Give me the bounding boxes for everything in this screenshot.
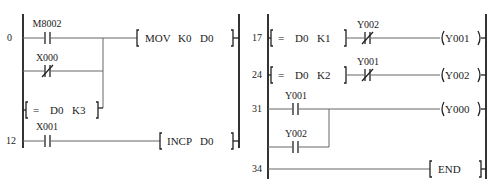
rung-17: 17 = D0 K1 Y002 Y001 (252, 19, 486, 46)
coil-label: Y000 (445, 103, 470, 115)
contact-label: X000 (36, 52, 58, 63)
instruction-op: INCP (167, 135, 192, 147)
compare-d0-k3[interactable]: = D0 K3 (23, 102, 103, 118)
compare-op: = (278, 69, 284, 81)
contact-x001[interactable]: X001 (36, 121, 58, 147)
instruction-op: MOV (145, 32, 171, 44)
step-number: 34 (252, 163, 262, 174)
coil-y002[interactable]: Y002 (442, 68, 486, 82)
coil-label: Y001 (445, 32, 469, 44)
rung-12: 12 X001 INCP D0 (6, 121, 239, 149)
contact-y001-nc[interactable]: Y001 (357, 56, 379, 81)
contact-y001-no[interactable]: Y001 (285, 90, 307, 115)
compare-d0-k2[interactable]: = D0 K2 (268, 67, 346, 83)
compare-arg-b: K3 (72, 104, 86, 116)
instruction-op: END (438, 163, 461, 175)
contact-label: Y002 (285, 128, 307, 139)
step-number: 24 (252, 69, 262, 80)
contact-label: M8002 (33, 18, 62, 29)
coil-y001[interactable]: Y001 (442, 31, 486, 45)
rung-34: 34 END (252, 161, 486, 177)
instruction-arg: D0 (200, 135, 214, 147)
contact-y002-nc[interactable]: Y002 (357, 19, 379, 44)
right-program: 17 = D0 K1 Y002 Y001 (252, 14, 486, 179)
contact-label: Y002 (357, 19, 379, 30)
compare-arg-a: D0 (295, 69, 309, 81)
contact-x000[interactable]: X000 (36, 52, 58, 77)
step-number: 31 (252, 103, 262, 114)
compare-arg-b: K2 (317, 69, 330, 81)
coil-label: Y002 (445, 69, 469, 81)
instruction-arg: D0 (200, 32, 214, 44)
contact-label: Y001 (285, 90, 307, 101)
rung-0: 0 M8002 X000 (7, 18, 239, 118)
contact-y002-no[interactable]: Y002 (285, 128, 307, 153)
compare-arg-a: D0 (50, 104, 64, 116)
compare-arg-a: D0 (295, 32, 309, 44)
instruction-mov[interactable]: MOV K0 D0 (137, 30, 239, 46)
left-program: 0 M8002 X000 (6, 14, 239, 149)
ladder-diagram: 0 M8002 X000 (0, 0, 496, 189)
compare-op: = (278, 32, 284, 44)
compare-arg-b: K1 (317, 32, 330, 44)
instruction-arg: K0 (178, 32, 192, 44)
compare-op: = (33, 104, 39, 116)
contact-m8002[interactable]: M8002 (33, 18, 62, 44)
coil-y000[interactable]: Y000 (442, 102, 486, 116)
step-number: 0 (7, 32, 12, 43)
instruction-incp[interactable]: INCP D0 (160, 133, 239, 149)
compare-d0-k1[interactable]: = D0 K1 (268, 30, 346, 46)
rung-31: 31 Y001 Y002 Y000 (252, 90, 486, 153)
rung-24: 24 = D0 K2 Y001 Y002 (252, 56, 486, 83)
step-number: 12 (6, 135, 16, 146)
instruction-end[interactable]: END (430, 161, 486, 177)
step-number: 17 (252, 32, 262, 43)
contact-label: Y001 (357, 56, 379, 67)
contact-label: X001 (36, 121, 58, 132)
